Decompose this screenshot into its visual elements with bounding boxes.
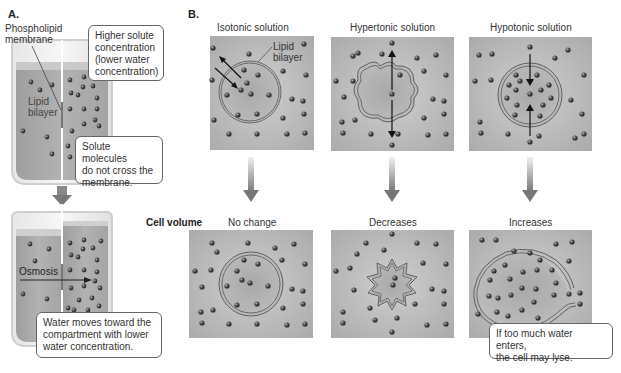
lipid-label-line2: bilayer <box>273 52 302 63</box>
callout-lyse: If too much water enters, the cell may l… <box>489 323 613 359</box>
hypotonic-result-panel <box>469 230 592 338</box>
hypertonic-panel <box>331 37 454 151</box>
transition-arrows <box>243 157 538 202</box>
isotonic-result-panel <box>189 230 313 338</box>
lipid-bilayer-label-b: Lipid bilayer <box>273 41 302 63</box>
lipid-label-line1: Lipid <box>273 41 302 52</box>
cell-panels <box>0 0 621 373</box>
hypotonic-panel <box>469 37 592 151</box>
hypertonic-result-panel <box>331 230 454 338</box>
callout-line: If too much water enters, <box>496 328 606 352</box>
callout-line: the cell may lyse. <box>496 352 606 364</box>
